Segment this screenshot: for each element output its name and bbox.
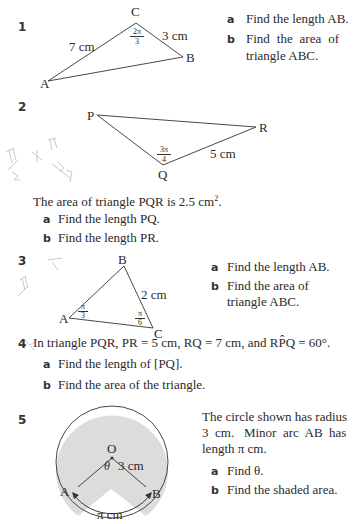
q3-vertex-b: B bbox=[118, 252, 127, 268]
q1-vertex-c: C bbox=[131, 4, 140, 20]
q1-part-a-text: Find the length AB. bbox=[246, 11, 349, 27]
q5-part-b-label: b bbox=[211, 484, 219, 497]
q5-point-b: B bbox=[152, 486, 161, 502]
q5-radius-label: 3 cm bbox=[118, 458, 144, 474]
q2-vertex-p: P bbox=[87, 108, 94, 124]
question-5-number: 5 bbox=[18, 413, 26, 427]
q3-part-a-text: Find the length AB. bbox=[227, 259, 330, 275]
q1-vertex-a: A bbox=[40, 76, 49, 92]
q2-statement-end: . bbox=[218, 194, 221, 209]
q3-angle-c-denominator: 6 bbox=[135, 319, 145, 327]
q1-side-cb-label: 3 cm bbox=[162, 28, 188, 44]
q3-vertex-a: A bbox=[59, 311, 68, 327]
q5-description-line2: 3 cm. Minor arc AB has bbox=[202, 425, 339, 441]
q2-part-a-label: a bbox=[43, 213, 50, 226]
q1-angle-c-numerator: 2π bbox=[130, 27, 144, 37]
q5-part-a-text: Find θ. bbox=[227, 463, 264, 479]
q2-angle-q-denominator: 4 bbox=[157, 155, 171, 164]
q4-part-b-label: b bbox=[43, 379, 51, 392]
q2-angle-q-numerator: 3π bbox=[157, 145, 171, 155]
q3-angle-a-fraction: π 3 bbox=[78, 303, 88, 320]
q2-part-b-label: b bbox=[43, 232, 51, 245]
q4-part-b-text: Find the area of the triangle. bbox=[58, 377, 205, 393]
q5-part-a-label: a bbox=[211, 465, 218, 478]
q1-angle-c-denominator: 3 bbox=[130, 37, 144, 46]
q2-side-qr-label: 5 cm bbox=[210, 146, 236, 162]
q4-part-a-text: Find the length of [PQ]. bbox=[58, 356, 183, 372]
q5-part-b-text: Find the shaded area. bbox=[227, 482, 337, 498]
q5-description-line1: The circle shown has radius bbox=[202, 409, 339, 425]
q3-angle-a-denominator: 3 bbox=[78, 312, 88, 320]
q2-part-a-text: Find the length PQ. bbox=[58, 211, 160, 227]
question-1-number: 1 bbox=[18, 20, 26, 34]
q3-angle-c-fraction: π 6 bbox=[135, 310, 145, 327]
q3-part-a-label: a bbox=[211, 261, 218, 274]
q1-angle-c-fraction: 2π 3 bbox=[130, 27, 144, 46]
q4-part-a-label: a bbox=[43, 358, 50, 371]
q2-statement: The area of triangle PQR is 2.5 cm2. bbox=[33, 191, 221, 210]
question-4-number: 4 bbox=[18, 337, 26, 351]
q3-part-b-text-line1: Find the area of bbox=[227, 278, 309, 294]
q1-side-ac-label: 7 cm bbox=[69, 39, 95, 55]
q2-vertex-q: Q bbox=[158, 167, 167, 183]
q5-angle-theta: θ bbox=[104, 458, 110, 474]
q2-part-b-text: Find the length PR. bbox=[58, 230, 159, 246]
q1-vertex-b: B bbox=[186, 50, 195, 66]
q1-part-b-text-line1: Find the area of bbox=[246, 31, 339, 47]
q1-part-b-label: b bbox=[227, 33, 235, 46]
q1-part-a-label: a bbox=[227, 13, 234, 26]
q3-side-bc-label: 2 cm bbox=[141, 287, 167, 303]
question-2-number: 2 bbox=[18, 100, 26, 114]
q5-center-label: O bbox=[107, 441, 116, 457]
q2-vertex-r: R bbox=[259, 120, 268, 136]
q5-arc-label: π cm bbox=[97, 507, 123, 523]
q1-part-b-text-line2: triangle ABC. bbox=[246, 48, 318, 64]
q2-statement-text: The area of triangle PQR is 2.5 cm bbox=[33, 194, 214, 209]
q5-point-a: A bbox=[60, 484, 69, 500]
q4-statement: In triangle PQR, PR = 5 cm, RQ = 7 cm, a… bbox=[33, 335, 330, 351]
q3-part-b-label: b bbox=[211, 280, 219, 293]
q2-angle-q-fraction: 3π 4 bbox=[157, 145, 171, 164]
q3-part-b-text-line2: triangle ABC. bbox=[227, 294, 299, 310]
q5-description-line3: length π cm. bbox=[202, 441, 267, 457]
question-3-number: 3 bbox=[18, 254, 26, 268]
